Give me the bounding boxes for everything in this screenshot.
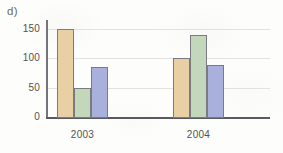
x-axis-tick-label: 2003 [60,129,106,140]
chart-screenshot: d) 05010015020032004 [0,0,283,153]
bar [74,88,91,118]
bar-chart-plot: 05010015020032004 [0,0,283,153]
gridline [46,29,270,30]
y-axis-tick-label: 150 [14,23,40,34]
y-axis-tick-label: 0 [14,111,40,122]
bar [57,29,74,118]
y-axis [46,20,48,118]
bar [91,67,108,118]
x-axis-tick-label: 2004 [176,129,222,140]
bar [190,35,207,118]
bar [207,65,224,118]
y-axis-tick-label: 100 [14,52,40,63]
bar [173,58,190,118]
y-axis-tick-label: 50 [14,82,40,93]
gridline [46,58,270,59]
